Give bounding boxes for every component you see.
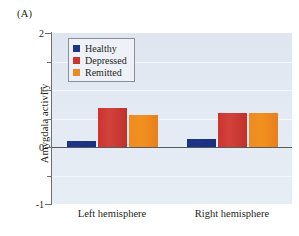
y-axis-tick	[45, 90, 52, 91]
legend-item-healthy: Healthy	[73, 42, 127, 54]
y-axis-minor-tick	[47, 176, 52, 177]
y-axis-minor-tick	[47, 119, 52, 120]
y-axis-title: Amygdala activity	[39, 44, 50, 204]
figure-panel-a: (A) Amygdala activity 210-1 Left hemisph…	[0, 0, 299, 236]
legend-swatch-icon-healthy	[73, 45, 80, 52]
y-axis-tick	[45, 204, 52, 205]
legend-swatch-icon-remitted	[73, 69, 80, 76]
y-axis-tick-label: 1	[4, 85, 44, 96]
legend-swatch-icon-depressed	[73, 57, 80, 64]
zero-line	[52, 147, 292, 148]
legend-label: Remitted	[85, 67, 122, 78]
bar-remitted-right	[249, 113, 278, 147]
panel-label: (A)	[17, 8, 32, 19]
bar-depressed-right	[218, 113, 247, 147]
legend-label: Depressed	[85, 55, 127, 66]
bar-remitted-left	[129, 115, 158, 147]
y-axis-tick-label: 2	[4, 28, 44, 39]
legend-item-depressed: Depressed	[73, 54, 127, 66]
y-axis-tick-label: 0	[4, 142, 44, 153]
y-axis-tick	[45, 33, 52, 34]
bar-healthy-right	[187, 139, 216, 147]
legend-label: Healthy	[85, 43, 117, 54]
y-axis-tick-label: -1	[4, 199, 44, 210]
x-axis-label-right: Right hemisphere	[195, 208, 269, 219]
gridline	[52, 176, 292, 177]
gridline	[52, 90, 292, 91]
legend: HealthyDepressedRemitted	[68, 38, 135, 82]
bar-depressed-left	[98, 108, 127, 147]
y-axis-tick	[45, 147, 52, 148]
x-axis-label-left: Left hemisphere	[78, 208, 147, 219]
legend-item-remitted: Remitted	[73, 66, 127, 78]
y-axis-minor-tick	[47, 62, 52, 63]
